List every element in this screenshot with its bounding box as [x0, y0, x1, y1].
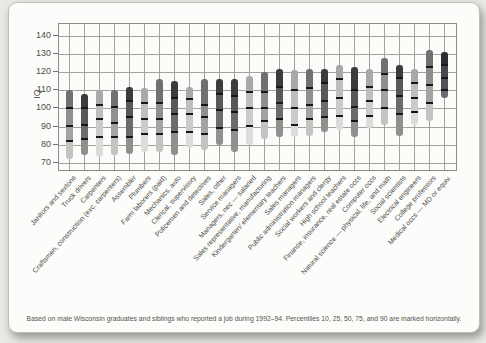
percentile-segment	[426, 67, 433, 85]
percentile-segment	[336, 116, 343, 130]
percentile-tick	[141, 118, 148, 120]
percentile-tick	[291, 124, 298, 126]
percentile-tick	[396, 77, 403, 79]
percentile-segment	[276, 103, 283, 119]
percentile-segment	[366, 101, 373, 115]
range-bar	[186, 87, 193, 149]
y-tick-label: 90	[23, 121, 51, 131]
percentile-segment	[66, 90, 73, 108]
percentile-segment	[351, 107, 358, 121]
percentile-tick	[306, 87, 313, 89]
percentile-segment	[411, 83, 418, 97]
range-bar	[141, 88, 148, 151]
percentile-tick	[126, 100, 133, 102]
percentile-segment	[171, 81, 178, 97]
percentile-tick	[261, 120, 268, 122]
percentile-tick	[381, 89, 388, 91]
percentile-segment	[246, 108, 253, 126]
range-bar	[381, 58, 388, 125]
percentile-segment	[396, 96, 403, 114]
percentile-segment	[246, 92, 253, 108]
percentile-segment	[306, 88, 313, 104]
percentile-segment	[426, 50, 433, 66]
range-bar	[171, 81, 178, 155]
percentile-segment	[246, 76, 253, 92]
percentile-segment	[396, 78, 403, 96]
percentile-segment	[201, 134, 208, 150]
percentile-tick	[81, 107, 88, 109]
percentile-segment	[171, 114, 178, 132]
percentile-segment	[381, 108, 388, 124]
percentile-segment	[366, 69, 373, 87]
percentile-segment	[336, 79, 343, 97]
plot-area	[58, 23, 457, 171]
percentile-segment	[66, 141, 73, 159]
percentile-segment	[216, 110, 223, 128]
percentile-tick	[426, 84, 433, 86]
y-tick-label: 140	[23, 30, 51, 40]
percentile-segment	[351, 121, 358, 137]
percentile-segment	[81, 139, 88, 155]
percentile-segment	[351, 90, 358, 106]
percentile-tick	[141, 102, 148, 104]
gridline-h	[59, 163, 456, 164]
percentile-tick	[96, 136, 103, 138]
percentile-segment	[156, 79, 163, 103]
gridline-h	[59, 145, 456, 146]
percentile-tick	[231, 129, 238, 131]
percentile-segment	[141, 88, 148, 102]
percentile-segment	[111, 107, 118, 123]
percentile-tick	[291, 107, 298, 109]
percentile-tick	[366, 100, 373, 102]
percentile-segment	[126, 101, 133, 117]
percentile-tick	[276, 118, 283, 120]
percentile-segment	[81, 94, 88, 108]
percentile-tick	[336, 78, 343, 80]
percentile-tick	[321, 82, 328, 84]
range-bar	[366, 69, 373, 129]
range-bar	[96, 90, 103, 157]
percentile-segment	[111, 137, 118, 155]
percentile-segment	[321, 69, 328, 83]
percentile-tick	[411, 111, 418, 113]
percentile-segment	[291, 90, 298, 108]
percentile-segment	[186, 132, 193, 148]
percentile-tick	[96, 104, 103, 106]
percentile-tick	[96, 118, 103, 120]
percentile-tick	[441, 64, 448, 66]
percentile-segment	[261, 92, 268, 108]
range-bar	[306, 69, 313, 136]
percentile-tick	[201, 104, 208, 106]
percentile-tick	[306, 118, 313, 120]
percentile-tick	[201, 116, 208, 118]
percentile-segment	[216, 128, 223, 144]
percentile-tick	[186, 98, 193, 100]
percentile-tick	[126, 116, 133, 118]
percentile-tick	[426, 66, 433, 68]
y-tick-mark	[53, 144, 58, 145]
percentile-segment	[156, 119, 163, 133]
percentile-tick	[111, 136, 118, 138]
percentile-segment	[96, 105, 103, 119]
percentile-segment	[231, 130, 238, 152]
percentile-segment	[231, 79, 238, 95]
percentile-segment	[66, 126, 73, 140]
percentile-segment	[426, 103, 433, 121]
percentile-tick	[426, 102, 433, 104]
percentile-tick	[66, 140, 73, 142]
percentile-tick	[246, 107, 253, 109]
percentile-segment	[411, 98, 418, 112]
range-bar	[276, 69, 283, 138]
percentile-tick	[336, 115, 343, 117]
percentile-segment	[306, 69, 313, 89]
percentile-segment	[396, 114, 403, 136]
percentile-segment	[231, 96, 238, 112]
percentile-segment	[291, 125, 298, 138]
percentile-tick	[81, 124, 88, 126]
percentile-tick	[66, 125, 73, 127]
percentile-tick	[81, 138, 88, 140]
range-bar	[111, 90, 118, 155]
percentile-segment	[96, 90, 103, 104]
percentile-tick	[216, 109, 223, 111]
percentile-tick	[351, 120, 358, 122]
